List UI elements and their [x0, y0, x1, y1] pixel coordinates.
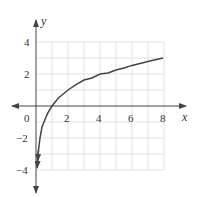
- tick-y-neg4: −4: [16, 164, 28, 176]
- tick-x-4: 4: [96, 112, 102, 124]
- log-graph: 0 2 4 6 8 4 2 −2 −4 y x: [0, 0, 198, 198]
- tick-x-0: 0: [24, 112, 30, 124]
- tick-y-4: 4: [24, 36, 30, 48]
- tick-x-8: 8: [160, 112, 166, 124]
- tick-y-neg2: −2: [16, 132, 28, 144]
- tick-y-2: 2: [24, 68, 30, 80]
- y-axis-label: y: [40, 14, 47, 28]
- tick-x-2: 2: [64, 112, 70, 124]
- log-curve: [37, 103, 52, 170]
- axes: [12, 20, 186, 193]
- x-axis-label: x: [181, 110, 188, 124]
- tick-x-6: 6: [128, 112, 134, 124]
